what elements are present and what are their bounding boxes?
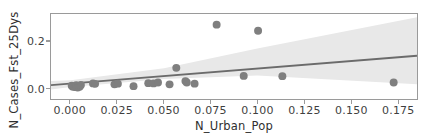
scatter-point <box>172 64 180 72</box>
plot-area <box>50 13 418 100</box>
x-tick-label: 0.150 <box>335 104 368 117</box>
x-tick-label: 0.100 <box>241 104 274 117</box>
plot-canvas <box>51 14 417 99</box>
y-tick-label: 0.0 <box>27 82 45 95</box>
scatter-point <box>166 80 174 88</box>
scatter-point <box>191 80 199 88</box>
scatter-point <box>254 27 262 35</box>
scatter-point <box>183 79 191 87</box>
x-tick-label: 0.125 <box>288 104 321 117</box>
y-tick-label: 0.2 <box>27 35 45 48</box>
scatter-point <box>114 80 122 88</box>
scatter-point <box>130 82 138 90</box>
x-tick-label: 0.050 <box>147 104 180 117</box>
scatter-point <box>390 79 398 87</box>
x-axis-label: N_Urban_Pop <box>50 119 418 133</box>
scatter-point <box>154 79 162 87</box>
scatter-point <box>278 72 286 80</box>
scatter-point <box>77 81 85 89</box>
scatter-point <box>91 80 99 88</box>
confidence-band <box>51 17 417 89</box>
scatter-point <box>213 21 221 29</box>
x-tick-label: 0.075 <box>194 104 227 117</box>
y-axis-label: N_Cases_Fst_25Dys <box>6 0 22 140</box>
y-tick-mark <box>46 88 50 89</box>
x-tick-label: 0.000 <box>53 104 86 117</box>
scatter-plot-figure: 0.0000.0250.0500.0750.1000.1250.1500.175… <box>0 0 430 140</box>
y-tick-mark <box>46 40 50 41</box>
scatter-point <box>240 72 248 80</box>
x-tick-label: 0.175 <box>382 104 415 117</box>
x-tick-label: 0.025 <box>100 104 133 117</box>
